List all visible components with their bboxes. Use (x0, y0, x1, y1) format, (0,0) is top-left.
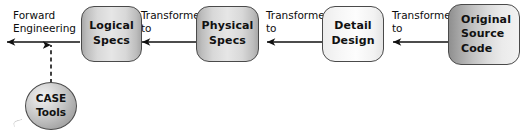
node-logical-specs[interactable]: Logical Specs (81, 6, 142, 62)
node-original-source-code-line-3: Code (461, 42, 492, 57)
forward-engineering-diagram: Forward Engineering Transformed to Trans… (0, 0, 526, 132)
node-detail-design-line-1: Detail (334, 19, 371, 34)
label-forward-engineering-line-2: Engineering (13, 22, 76, 35)
node-physical-specs[interactable]: Physical Specs (196, 6, 259, 62)
node-logical-specs-line-1: Logical (89, 19, 134, 34)
node-physical-specs-line-2: Specs (209, 34, 246, 49)
node-case-tools[interactable]: CASE Tools (25, 82, 77, 130)
node-detail-design[interactable]: Detail Design (322, 6, 384, 62)
node-detail-design-line-2: Design (331, 34, 374, 49)
scan-artifact-speck (12, 119, 23, 127)
label-forward-engineering: Forward Engineering (13, 9, 76, 35)
label-forward-engineering-line-1: Forward (13, 9, 76, 22)
node-original-source-code[interactable]: Original Source Code (448, 4, 520, 65)
node-original-source-code-line-2: Source (461, 27, 504, 42)
node-case-tools-line-2: Tools (36, 106, 66, 120)
node-original-source-code-line-1: Original (461, 13, 511, 28)
node-physical-specs-line-1: Physical (202, 19, 254, 34)
node-case-tools-line-1: CASE (36, 92, 67, 106)
node-logical-specs-line-2: Specs (93, 34, 130, 49)
